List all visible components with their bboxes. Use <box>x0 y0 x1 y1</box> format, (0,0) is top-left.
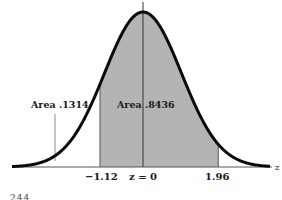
tick-label-z-0: z = 0 <box>129 171 157 182</box>
axis-z-label: z <box>275 163 279 172</box>
left-area-label: Area .1314 <box>30 99 89 110</box>
center-area-label: Area .8436 <box>116 99 175 110</box>
tick-label-1-96: 1.96 <box>205 171 229 182</box>
normal-curve-figure: Area .1314 Area .8436 z −1.12 z = 0 1.96… <box>0 0 282 200</box>
tick-label-neg-1-12: −1.12 <box>85 171 118 182</box>
shaded-area-region <box>100 12 218 167</box>
partial-footer-text: 244 <box>10 193 30 200</box>
